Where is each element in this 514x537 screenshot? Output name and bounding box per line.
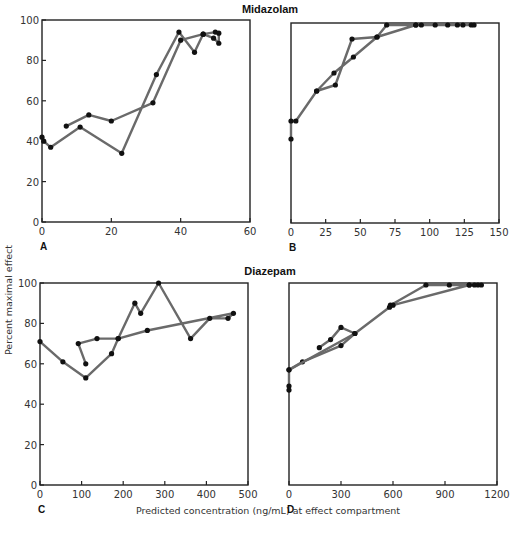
- data-point: [288, 118, 293, 123]
- data-point: [471, 22, 476, 27]
- data-point: [333, 82, 338, 87]
- data-point: [132, 301, 137, 306]
- data-point: [119, 151, 124, 156]
- panel-label: D: [287, 504, 294, 515]
- data-point: [351, 54, 356, 59]
- panel-label: C: [38, 504, 45, 515]
- x-tick-label: 0: [288, 227, 294, 238]
- y-tick-label: 80: [24, 318, 37, 329]
- data-point: [211, 36, 216, 41]
- plot-frame: [291, 23, 499, 223]
- x-tick-label: 1200: [484, 489, 509, 500]
- group-title-diazepam: Diazepam: [244, 265, 296, 277]
- data-point: [216, 31, 221, 36]
- data-point: [433, 22, 438, 27]
- data-point: [225, 316, 230, 321]
- x-tick-label: 125: [455, 227, 474, 238]
- data-point: [423, 282, 428, 287]
- data-point: [156, 280, 161, 285]
- data-point: [455, 22, 460, 27]
- x-tick-label: 150: [489, 227, 508, 238]
- data-point: [467, 282, 472, 287]
- plot-frame: [289, 283, 497, 485]
- data-point: [109, 351, 114, 356]
- panel-d: 03006009001200D: [286, 282, 510, 515]
- data-point: [384, 22, 389, 27]
- x-tick-label: 900: [435, 489, 454, 500]
- y-tick-label: 20: [26, 177, 39, 188]
- y-tick-label: 60: [24, 359, 37, 370]
- x-tick-label: 20: [105, 226, 118, 237]
- data-point: [314, 88, 319, 93]
- y-tick-label: 0: [31, 480, 37, 491]
- data-point: [138, 311, 143, 316]
- data-point: [154, 72, 159, 77]
- x-axis-label: Predicted concentration (ng/mL) at effec…: [136, 505, 400, 516]
- data-point: [338, 343, 343, 348]
- data-line: [40, 283, 233, 378]
- panel-label: B: [289, 242, 296, 253]
- group-title-midazolam: Midazolam: [242, 3, 298, 15]
- y-axis-label: Percent maximal effect: [3, 245, 14, 355]
- y-tick-label: 40: [24, 399, 37, 410]
- panel-a: 0204060020406080100A: [20, 15, 256, 252]
- data-point: [150, 100, 155, 105]
- data-point: [293, 118, 298, 123]
- x-tick-label: 60: [244, 226, 257, 237]
- data-point: [94, 336, 99, 341]
- y-tick-label: 100: [20, 15, 39, 26]
- data-point: [288, 136, 293, 141]
- x-tick-label: 300: [155, 489, 174, 500]
- y-tick-label: 20: [24, 440, 37, 451]
- y-tick-label: 100: [18, 278, 37, 289]
- data-point: [331, 70, 336, 75]
- data-point: [37, 339, 42, 344]
- x-tick-label: 0: [37, 489, 43, 500]
- x-tick-label: 400: [197, 489, 216, 500]
- data-line: [42, 32, 219, 153]
- panel-label: A: [40, 241, 47, 252]
- x-tick-label: 40: [174, 226, 187, 237]
- data-point: [76, 341, 81, 346]
- data-point: [192, 50, 197, 55]
- data-line: [289, 327, 355, 390]
- x-tick-label: 75: [389, 227, 402, 238]
- data-point: [413, 22, 418, 27]
- data-point: [188, 336, 193, 341]
- data-point: [109, 118, 114, 123]
- y-tick-label: 60: [26, 96, 39, 107]
- plot-frame: [40, 283, 248, 485]
- panel-b: 0255075100125150B: [288, 22, 509, 253]
- data-point: [349, 36, 354, 41]
- data-point: [83, 361, 88, 366]
- data-line: [289, 285, 481, 370]
- x-tick-label: 0: [39, 226, 45, 237]
- data-point: [231, 311, 236, 316]
- data-point: [460, 22, 465, 27]
- data-point: [216, 41, 221, 46]
- data-point: [390, 303, 395, 308]
- data-point: [176, 30, 181, 35]
- data-point: [338, 325, 343, 330]
- data-point: [286, 383, 291, 388]
- x-tick-label: 0: [286, 489, 292, 500]
- data-point: [207, 316, 212, 321]
- data-point: [374, 34, 379, 39]
- x-tick-label: 25: [319, 227, 332, 238]
- data-point: [116, 336, 121, 341]
- x-tick-label: 100: [72, 489, 91, 500]
- x-tick-label: 600: [383, 489, 402, 500]
- data-point: [352, 331, 357, 336]
- y-tick-label: 0: [33, 217, 39, 228]
- data-point: [286, 367, 291, 372]
- data-point: [328, 337, 333, 342]
- x-tick-label: 50: [354, 227, 367, 238]
- data-point: [41, 139, 46, 144]
- data-point: [317, 345, 322, 350]
- data-point: [78, 124, 83, 129]
- data-point: [479, 282, 484, 287]
- data-line: [291, 25, 474, 139]
- y-tick-label: 40: [26, 136, 39, 147]
- data-point: [86, 112, 91, 117]
- x-tick-label: 100: [420, 227, 439, 238]
